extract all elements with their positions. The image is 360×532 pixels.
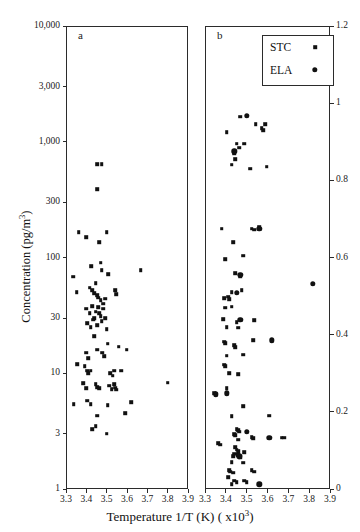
x-tick-label-a-3: 3.6 bbox=[121, 495, 133, 505]
data-point-b-stc-36 bbox=[224, 341, 228, 345]
data-point-b-stc-50 bbox=[230, 415, 234, 419]
panel-b-letter: b bbox=[217, 29, 223, 41]
data-point-a-stc-12 bbox=[139, 268, 143, 272]
y-axis-title-text: Concentration (pg/m3) bbox=[20, 210, 34, 322]
y-tick-label-a-4: 100 bbox=[10, 253, 60, 263]
data-point-b-stc-61 bbox=[282, 436, 286, 440]
x-tick-a-3 bbox=[127, 489, 128, 493]
data-point-a-stc-60 bbox=[84, 387, 88, 391]
y-tick-a-3 bbox=[63, 318, 67, 319]
data-point-b-stc-59 bbox=[251, 436, 255, 440]
data-point-b-stc-57 bbox=[236, 438, 240, 442]
data-point-b-stc-19 bbox=[224, 258, 228, 262]
y-tick-b-6 bbox=[330, 26, 334, 27]
data-point-b-stc-40 bbox=[225, 354, 229, 358]
x-tick-a-4 bbox=[147, 489, 148, 493]
data-point-b-stc-51 bbox=[267, 414, 271, 418]
y-tick-b-0 bbox=[330, 489, 334, 490]
x-tick-label-b-3: 3.6 bbox=[262, 495, 274, 505]
data-point-b-stc-7 bbox=[237, 146, 241, 150]
data-point-a-stc-11 bbox=[106, 272, 110, 276]
legend-label-ela: ELA bbox=[270, 65, 292, 77]
x-tick-label-b-6: 3.9 bbox=[324, 495, 336, 505]
y-tick-a-8 bbox=[63, 26, 67, 27]
data-point-a-stc-4 bbox=[84, 235, 88, 239]
y-tick-b-2 bbox=[330, 334, 334, 335]
data-point-b-stc-18 bbox=[231, 240, 235, 244]
data-point-a-stc-68 bbox=[115, 388, 119, 392]
legend-marker-square-stc bbox=[313, 45, 317, 49]
data-point-a-stc-54 bbox=[89, 369, 93, 373]
x-tick-b-6 bbox=[330, 489, 331, 493]
data-point-a-stc-57 bbox=[112, 369, 116, 373]
data-point-a-stc-10 bbox=[100, 268, 104, 272]
y-tick-label-a-1: 3 bbox=[10, 429, 60, 439]
data-point-a-stc-41 bbox=[93, 334, 97, 338]
x-tick-label-b-5: 3.8 bbox=[303, 495, 315, 505]
x-tick-label-a-2: 3.5 bbox=[101, 495, 113, 505]
x-tick-b-3 bbox=[267, 489, 268, 493]
y-tick-a-7 bbox=[63, 86, 67, 87]
data-point-b-stc-68 bbox=[242, 451, 246, 455]
x-axis-title: Temperature 1/T (K) ( x103) bbox=[0, 508, 360, 525]
data-point-b-stc-12 bbox=[249, 167, 253, 171]
y-tick-b-3 bbox=[330, 257, 334, 258]
data-point-b-stc-16 bbox=[252, 228, 256, 232]
data-point-a-stc-49 bbox=[125, 348, 129, 352]
data-point-a-stc-70 bbox=[72, 402, 76, 406]
y-tick-label-b-5: 1 bbox=[336, 98, 341, 108]
data-point-a-stc-59 bbox=[82, 381, 86, 385]
data-point-a-stc-46 bbox=[95, 348, 99, 352]
data-point-a-stc-2 bbox=[95, 187, 99, 191]
y-tick-a-6 bbox=[63, 141, 67, 142]
y-tick-b-5 bbox=[330, 103, 334, 104]
data-point-b-stc-0 bbox=[239, 115, 243, 119]
data-point-a-stc-78 bbox=[94, 424, 98, 428]
y-tick-label-a-0: 1 bbox=[10, 484, 60, 494]
plot-panel-a bbox=[66, 26, 188, 489]
panel-a-letter: a bbox=[78, 29, 83, 41]
data-point-a-stc-37 bbox=[91, 318, 95, 322]
y-tick-b-1 bbox=[330, 411, 334, 412]
data-point-a-stc-56 bbox=[111, 374, 115, 378]
data-point-a-stc-73 bbox=[106, 403, 110, 407]
data-point-a-stc-6 bbox=[105, 231, 109, 235]
x-tick-b-1 bbox=[225, 489, 226, 493]
data-point-b-stc-14 bbox=[220, 227, 224, 231]
data-point-a-stc-50 bbox=[76, 362, 80, 366]
y-tick-label-b-0: 0 bbox=[336, 484, 341, 494]
y-tick-label-a-2: 10 bbox=[10, 369, 60, 379]
legend-label-stc: STC bbox=[270, 42, 291, 54]
data-point-b-stc-27 bbox=[227, 297, 231, 301]
data-point-a-stc-13 bbox=[75, 291, 79, 295]
data-point-a-stc-69 bbox=[166, 381, 170, 385]
data-point-b-stc-39 bbox=[251, 339, 255, 343]
data-point-a-stc-36 bbox=[89, 325, 93, 329]
data-point-a-stc-21 bbox=[101, 302, 105, 306]
data-point-b-stc-69 bbox=[231, 454, 235, 458]
data-point-a-stc-43 bbox=[117, 345, 121, 349]
data-point-a-stc-79 bbox=[105, 432, 109, 436]
data-point-a-stc-51 bbox=[83, 364, 87, 368]
data-point-b-stc-41 bbox=[241, 353, 245, 357]
data-point-b-stc-1 bbox=[254, 123, 258, 127]
data-point-a-stc-26 bbox=[88, 311, 92, 315]
x-tick-a-6 bbox=[188, 489, 189, 493]
data-point-b-stc-75 bbox=[231, 471, 235, 475]
x-tick-label-b-4: 3.7 bbox=[282, 495, 294, 505]
data-point-b-stc-49 bbox=[241, 404, 245, 408]
x-axis-title-text: Temperature 1/T (K) ( x103) bbox=[107, 509, 254, 524]
y-tick-a-0 bbox=[63, 489, 67, 490]
data-point-b-stc-82 bbox=[245, 480, 249, 484]
y-tick-a-5 bbox=[63, 202, 67, 203]
data-point-a-stc-5 bbox=[98, 241, 102, 245]
legend-row-ela: ELA bbox=[263, 63, 333, 82]
data-point-a-stc-25 bbox=[84, 307, 88, 311]
x-tick-label-b-0: 3.3 bbox=[199, 495, 211, 505]
data-point-a-stc-48 bbox=[102, 355, 106, 359]
data-point-b-stc-3 bbox=[261, 128, 265, 132]
data-point-a-stc-74 bbox=[129, 401, 133, 405]
data-point-a-stc-45 bbox=[87, 356, 91, 360]
data-point-b-stc-32 bbox=[252, 318, 256, 322]
data-point-b-stc-13 bbox=[265, 165, 269, 169]
